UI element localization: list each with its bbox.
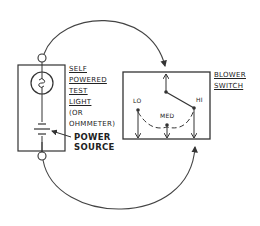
label-source: SOURCE — [74, 143, 115, 152]
label-power: POWER — [74, 133, 111, 142]
label-blower: BLOWER — [214, 72, 246, 79]
label-self: SELF — [69, 66, 87, 73]
diagram-canvas — [0, 0, 260, 226]
label-hi: HI — [196, 97, 203, 103]
label-light: LIGHT — [69, 99, 91, 106]
top-lead-arrow — [44, 21, 165, 66]
blower-switch-box — [123, 72, 210, 139]
label-or: (OR — [69, 110, 83, 117]
switch-blade — [166, 92, 194, 108]
test-light-box — [18, 54, 71, 160]
terminal-top-icon — [38, 54, 46, 62]
label-powered: POWERED — [69, 77, 107, 84]
label-ohmmeter: OHMMETER) — [69, 121, 115, 128]
bottom-lead-arrow — [43, 147, 195, 209]
label-lo: LO — [133, 98, 141, 104]
terminal-bottom-icon — [38, 152, 46, 160]
label-switch: SWITCH — [214, 83, 243, 90]
label-med: MED — [160, 113, 175, 119]
label-test: TEST — [69, 88, 88, 95]
battery-icon — [30, 112, 54, 152]
